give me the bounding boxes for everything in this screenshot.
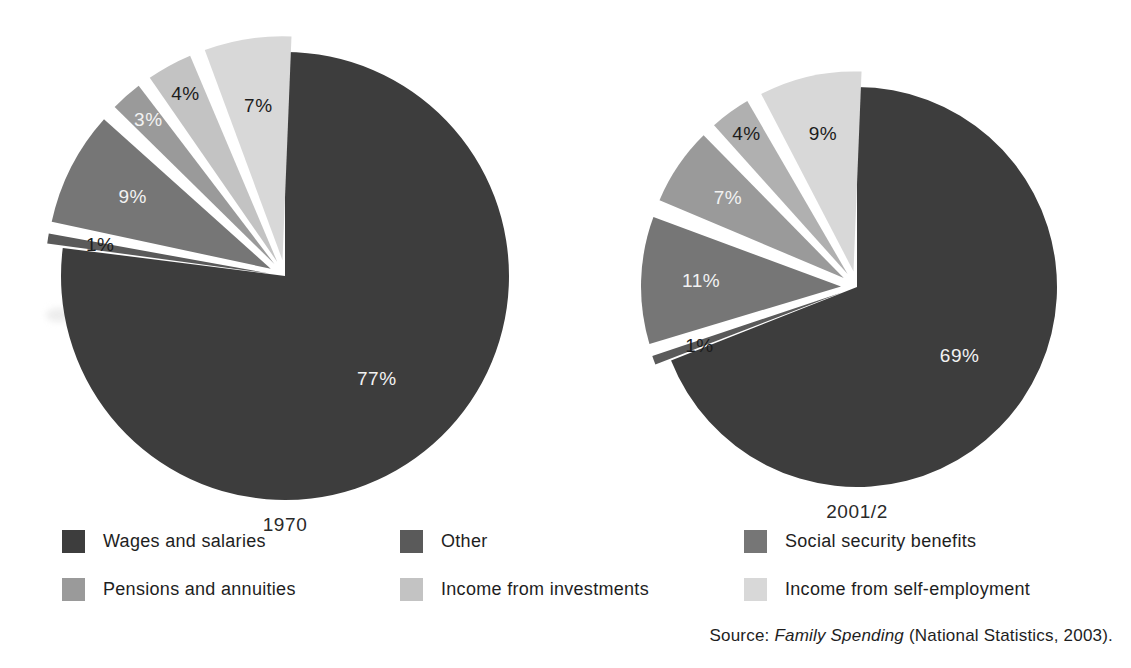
legend-swatch bbox=[62, 578, 85, 601]
legend-item[interactable]: Other bbox=[400, 530, 488, 553]
source-prefix: Source: bbox=[709, 626, 769, 645]
source-note: Source: Family Spending (National Statis… bbox=[709, 626, 1113, 646]
chart-legend: Wages and salariesPensions and annuities… bbox=[0, 530, 1131, 620]
slice-value-label: 1% bbox=[685, 335, 713, 356]
legend-item[interactable]: Income from investments bbox=[400, 578, 649, 601]
legend-item[interactable]: Income from self-employment bbox=[744, 578, 1030, 601]
legend-label: Income from self-employment bbox=[785, 579, 1030, 600]
slice-value-label: 4% bbox=[732, 123, 760, 144]
legend-label: Pensions and annuities bbox=[103, 579, 296, 600]
legend-swatch bbox=[744, 578, 767, 601]
legend-item[interactable]: Wages and salaries bbox=[62, 530, 266, 553]
legend-item[interactable]: Pensions and annuities bbox=[62, 578, 296, 601]
legend-swatch bbox=[744, 530, 767, 553]
slice-value-label: 7% bbox=[714, 187, 742, 208]
legend-item[interactable]: Social security benefits bbox=[744, 530, 976, 553]
slice-value-label: 69% bbox=[940, 345, 980, 366]
legend-label: Social security benefits bbox=[785, 531, 976, 552]
slice-value-label: 11% bbox=[682, 270, 720, 291]
legend-label: Wages and salaries bbox=[103, 531, 266, 552]
legend-swatch bbox=[62, 530, 85, 553]
pie-chart-figure: 77%1%9%3%4%7% 69%1%11%7%4%9% 1970 2001/2… bbox=[0, 0, 1131, 668]
legend-swatch bbox=[400, 578, 423, 601]
pie-caption-2001-2: 2001/2 bbox=[757, 501, 957, 523]
legend-label: Other bbox=[441, 531, 488, 552]
legend-swatch bbox=[400, 530, 423, 553]
source-publication: Family Spending bbox=[774, 626, 904, 645]
source-suffix: (National Statistics, 2003). bbox=[909, 626, 1113, 645]
pie-chart-2001-2: 69%1%11%7%4%9% bbox=[0, 0, 1131, 530]
legend-label: Income from investments bbox=[441, 579, 649, 600]
slice-value-label: 9% bbox=[809, 123, 837, 144]
